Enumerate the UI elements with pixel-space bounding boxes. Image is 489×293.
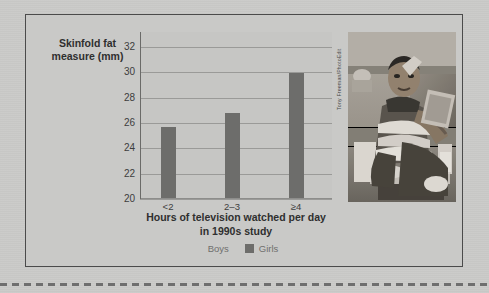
y-axis-tick-label: 24 <box>124 143 135 153</box>
y-axis-tick-label: 26 <box>124 118 135 128</box>
x-axis-title: Hours of television watched per day in 1… <box>121 211 351 238</box>
chart-legend: BoysGirls <box>121 243 351 254</box>
bottom-dashed-rule <box>0 283 489 286</box>
legend-item: Boys <box>194 243 229 254</box>
legend-label: Girls <box>259 243 279 254</box>
bar <box>161 127 176 199</box>
y-axis-line <box>140 32 141 199</box>
gridline <box>140 47 332 48</box>
x-axis-title-line-1: Hours of television watched per day <box>121 211 351 225</box>
bar <box>289 73 304 200</box>
figure-frame: Skinfold fat measure (mm) 20222426283032… <box>25 14 463 267</box>
y-axis-tick-label: 28 <box>124 93 135 103</box>
y-axis-tick-label: 22 <box>124 169 135 179</box>
plot-area: 20222426283032 <22–3≥4 <box>140 32 332 199</box>
y-axis-title: Skinfold fat measure (mm) <box>40 37 135 63</box>
bar <box>225 113 240 199</box>
legend-swatch-icon <box>194 244 203 253</box>
legend-label: Boys <box>208 243 229 254</box>
y-axis-tick-label: 20 <box>124 194 135 204</box>
photo-block: Tony Freeman/PhotoEdit <box>338 32 456 202</box>
y-axis-tick-label: 32 <box>124 42 135 52</box>
photo-credit: Tony Freeman/PhotoEdit <box>336 49 342 111</box>
x-axis-title-line-2: in 1990s study <box>121 225 351 239</box>
y-axis-tick-label: 30 <box>124 67 135 77</box>
chart-container: Skinfold fat measure (mm) 20222426283032… <box>26 15 464 268</box>
legend-item: Girls <box>245 243 279 254</box>
figure-page: Skinfold fat measure (mm) 20222426283032… <box>0 0 489 293</box>
gridline <box>140 199 332 200</box>
legend-swatch-icon <box>245 244 254 253</box>
photo-boy-eating-junk-food <box>348 32 456 202</box>
x-axis-line <box>140 198 332 199</box>
